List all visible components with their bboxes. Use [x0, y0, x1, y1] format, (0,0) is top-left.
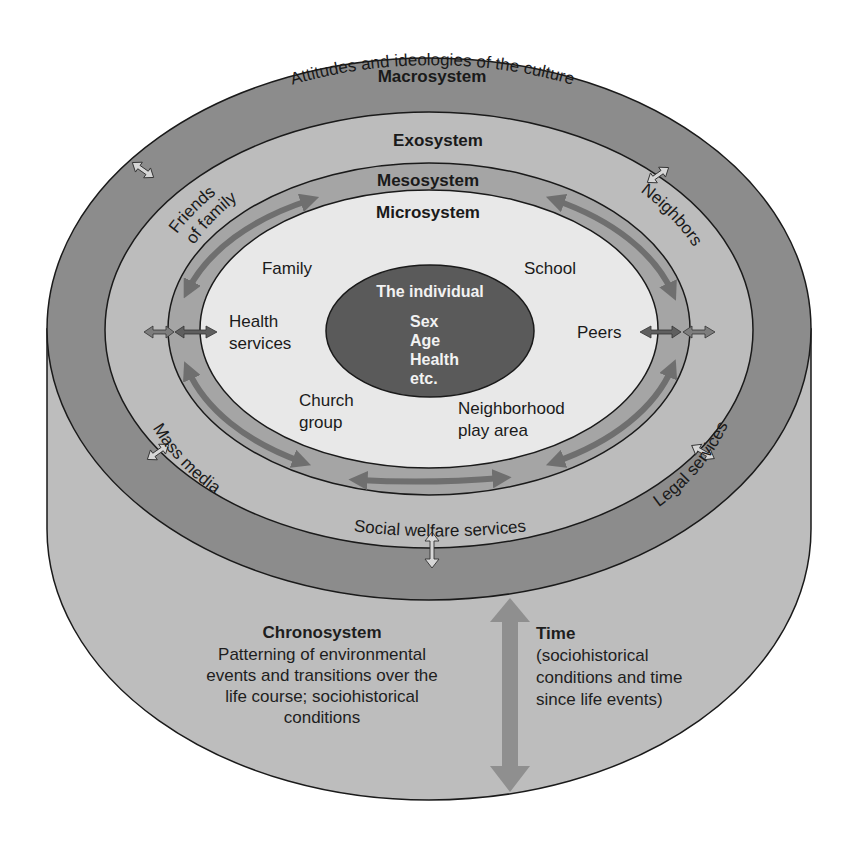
micro-item-neighborhood-line1: Neighborhood [458, 399, 565, 418]
exosystem-title: Exosystem [393, 131, 483, 150]
micro-item-church-line1: Church [299, 391, 354, 410]
time-title: Time [536, 624, 575, 643]
mesosystem-title: Mesosystem [377, 171, 479, 190]
time-desc-line3: since life events) [536, 690, 663, 709]
diagram-canvas: Macrosystem Attitudes and ideologies of … [0, 0, 860, 844]
individual-attr-etc: etc. [410, 370, 438, 387]
micro-item-family: Family [262, 259, 313, 278]
micro-item-neighborhood-line2: play area [458, 421, 528, 440]
ecological-systems-diagram: Macrosystem Attitudes and ideologies of … [0, 0, 860, 844]
micro-item-school: School [524, 259, 576, 278]
micro-item-church-line2: group [299, 413, 342, 432]
micro-item-peers: Peers [577, 323, 621, 342]
chronosystem-desc-line2: events and transitions over the [206, 666, 438, 685]
chronosystem-desc-line1: Patterning of environmental [218, 645, 426, 664]
time-desc-line1: (sociohistorical [536, 646, 648, 665]
microsystem-title: Microsystem [376, 203, 480, 222]
chronosystem-title: Chronosystem [262, 623, 381, 642]
micro-item-health-line2: services [229, 334, 291, 353]
chronosystem-desc-line3: life course; sociohistorical [225, 687, 419, 706]
individual-attr-health: Health [410, 351, 459, 368]
individual-attr-sex: Sex [410, 313, 439, 330]
individual-title: The individual [376, 283, 484, 300]
chronosystem-desc-line4: conditions [284, 708, 361, 727]
time-desc-line2: conditions and time [536, 668, 682, 687]
individual-attr-age: Age [410, 332, 440, 349]
micro-item-health-line1: Health [229, 312, 278, 331]
meso-arrow-bottom-center-icon [358, 478, 502, 482]
